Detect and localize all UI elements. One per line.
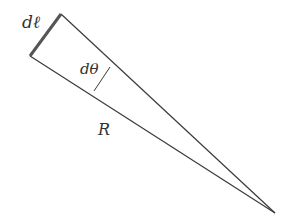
lower-radius-line xyxy=(30,56,275,213)
sector-shape xyxy=(0,0,283,220)
sector-diagram: dℓ dθ R xyxy=(0,0,283,220)
arc-length-label: dℓ xyxy=(22,12,40,33)
angle-label: dθ xyxy=(80,60,99,78)
upper-radius-line xyxy=(61,14,275,213)
radius-label: R xyxy=(98,120,110,139)
